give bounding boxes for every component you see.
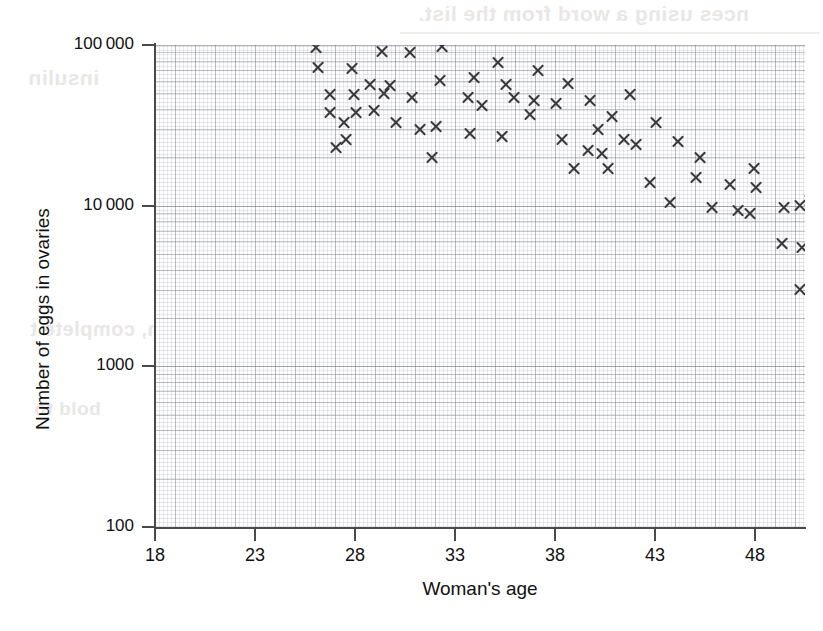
x-axis-tick-label: 38 [525, 545, 585, 566]
data-point-marker [367, 103, 382, 118]
horizontal-gridline [155, 45, 805, 46]
data-point-marker [555, 132, 570, 147]
data-point-marker [601, 161, 616, 176]
horizontal-gridline [155, 391, 805, 392]
data-point-marker [383, 78, 398, 93]
data-point-marker [413, 122, 428, 137]
data-point-marker [337, 115, 352, 130]
x-axis-tick [154, 529, 156, 541]
data-point-marker [693, 150, 708, 165]
data-point-marker [347, 87, 362, 102]
y-axis-tick-label: 100 [2, 516, 134, 536]
data-point-marker [405, 90, 420, 105]
horizontal-gridline [155, 52, 805, 53]
x-axis-tick [454, 529, 456, 541]
y-axis-tick [142, 365, 155, 367]
data-point-marker [567, 161, 582, 176]
y-axis-title: Number of eggs in ovaries [32, 208, 54, 430]
x-axis-tick [754, 529, 756, 541]
data-point-marker [435, 45, 450, 54]
horizontal-gridline [155, 382, 805, 383]
data-point-marker [605, 109, 620, 124]
data-point-marker [491, 55, 506, 70]
data-point-marker [689, 170, 704, 185]
data-point-marker [341, 45, 356, 47]
data-point-marker [595, 146, 610, 161]
horizontal-gridline [155, 61, 805, 62]
y-axis-tick [142, 44, 155, 46]
x-axis-tick-label: 48 [725, 545, 785, 566]
data-point-marker [671, 134, 686, 149]
x-axis-tick-label: 23 [225, 545, 285, 566]
data-point-marker [425, 150, 440, 165]
data-point-marker [795, 240, 806, 255]
data-point-marker [629, 137, 644, 152]
data-point-marker [705, 200, 720, 215]
horizontal-gridline [155, 241, 805, 242]
data-point-marker [663, 195, 678, 210]
horizontal-gridline [155, 129, 805, 130]
data-point-marker [467, 70, 482, 85]
data-point-marker [591, 122, 606, 137]
data-point-marker [549, 96, 564, 111]
data-point-marker [793, 282, 806, 297]
scatter-chart: 100100010 000100 000 18232833384348 Numb… [0, 0, 823, 631]
horizontal-gridline [155, 415, 805, 416]
data-point-marker [507, 90, 522, 105]
data-point-marker [747, 161, 762, 176]
horizontal-gridline [155, 270, 805, 271]
horizontal-gridline [155, 254, 805, 255]
data-point-marker [389, 115, 404, 130]
data-point-marker [561, 76, 576, 91]
data-point-marker [461, 90, 476, 105]
data-point-marker [749, 180, 764, 195]
data-point-marker [475, 98, 490, 113]
plot-area [155, 45, 805, 527]
data-point-marker [523, 107, 538, 122]
horizontal-gridline [155, 374, 805, 375]
horizontal-gridline [155, 93, 805, 94]
x-axis-tick-label: 33 [425, 545, 485, 566]
data-point-marker [433, 73, 448, 88]
y-axis-tick [142, 205, 155, 207]
data-point-marker [649, 115, 664, 130]
y-axis-tick-label: 100 000 [2, 34, 134, 54]
data-point-marker [775, 236, 790, 251]
data-point-marker [581, 143, 596, 158]
data-point-marker [463, 126, 478, 141]
x-axis-tick [254, 529, 256, 541]
data-point-marker [429, 119, 444, 134]
x-axis-tick [654, 529, 656, 541]
data-point-marker [375, 45, 390, 59]
horizontal-gridline [155, 402, 805, 403]
horizontal-gridline [155, 290, 805, 291]
horizontal-gridline [155, 231, 805, 232]
horizontal-gridline [155, 430, 805, 431]
x-axis-tick [554, 529, 556, 541]
x-axis-line [154, 527, 806, 529]
data-point-marker [323, 87, 338, 102]
horizontal-gridline [155, 157, 805, 158]
horizontal-gridline [155, 318, 805, 319]
data-point-marker [323, 105, 338, 120]
horizontal-gridline [155, 366, 805, 367]
horizontal-gridline [155, 450, 805, 451]
y-axis-tick-label: 10 000 [2, 195, 134, 215]
data-point-marker [777, 200, 792, 215]
x-axis-tick [354, 529, 356, 541]
data-point-marker [643, 175, 658, 190]
data-point-marker [583, 93, 598, 108]
horizontal-gridline [155, 479, 805, 480]
data-point-marker [805, 260, 806, 275]
x-axis-tick-label: 43 [625, 545, 685, 566]
data-point-marker [309, 45, 324, 55]
x-axis-title: Woman's age [155, 578, 805, 600]
y-axis-tick-label: 1000 [2, 355, 134, 375]
data-point-marker [743, 206, 758, 221]
data-point-marker [403, 45, 418, 60]
data-point-marker [531, 63, 546, 78]
data-point-marker [495, 129, 510, 144]
data-point-marker [363, 77, 378, 92]
horizontal-gridline [155, 221, 805, 222]
data-point-marker [311, 60, 326, 75]
